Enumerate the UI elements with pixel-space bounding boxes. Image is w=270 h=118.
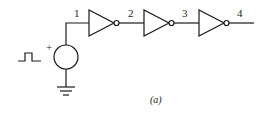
- wire-node-1: [66, 23, 89, 45]
- node-label-4: 4: [237, 7, 243, 19]
- figure-caption: (a): [150, 94, 162, 106]
- circuit-svg: + 1 2 3 4: [0, 0, 270, 118]
- ground-icon: [57, 87, 75, 95]
- pulse-waveform-icon: [18, 53, 41, 61]
- node-label-2: 2: [128, 7, 134, 19]
- source-polarity-label: +: [46, 41, 52, 53]
- inverter-2-icon: [144, 10, 174, 36]
- circuit-diagram: + 1 2 3 4: [0, 0, 270, 118]
- node-label-1: 1: [74, 7, 80, 19]
- inverter-3-icon: [199, 10, 229, 36]
- voltage-source-icon: [54, 45, 78, 69]
- inverter-1-icon: [89, 10, 119, 36]
- node-label-3: 3: [182, 7, 188, 19]
